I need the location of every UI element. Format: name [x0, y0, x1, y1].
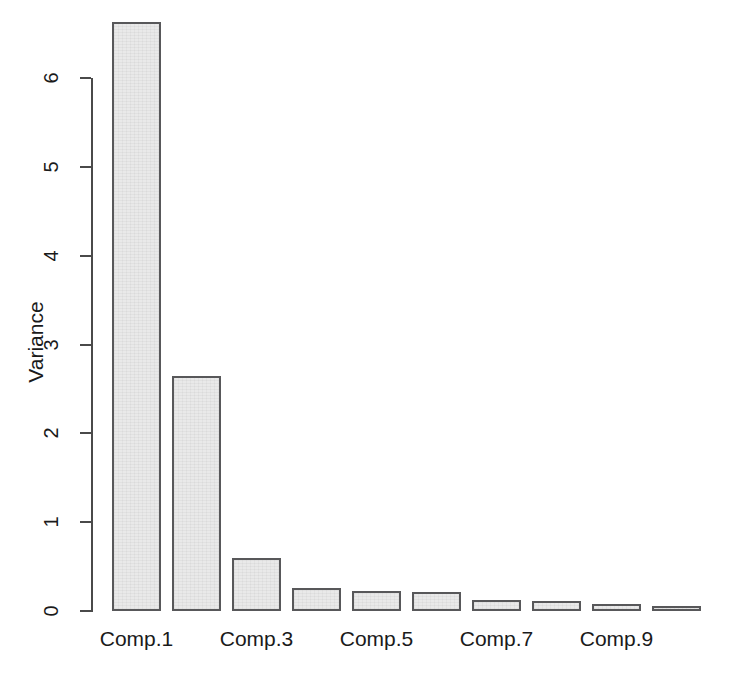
- bar: [352, 591, 401, 611]
- scree-plot: 0123456 Variance Comp.1Comp.3Comp.5Comp.…: [0, 0, 739, 675]
- x-axis-tick-label: Comp.1: [67, 626, 207, 652]
- bar: [172, 376, 221, 611]
- bar: [652, 606, 701, 611]
- bar-series: [0, 0, 739, 675]
- bar: [232, 558, 281, 611]
- bar: [592, 604, 641, 611]
- bar: [292, 588, 341, 611]
- x-axis-tick-label: Comp.9: [547, 626, 687, 652]
- x-axis-tick-label: Comp.5: [307, 626, 447, 652]
- bar: [532, 601, 581, 611]
- x-axis-tick-label: Comp.3: [187, 626, 327, 652]
- bar: [472, 600, 521, 611]
- bar: [112, 22, 161, 611]
- bar: [412, 592, 461, 611]
- x-axis-tick-label: Comp.7: [427, 626, 567, 652]
